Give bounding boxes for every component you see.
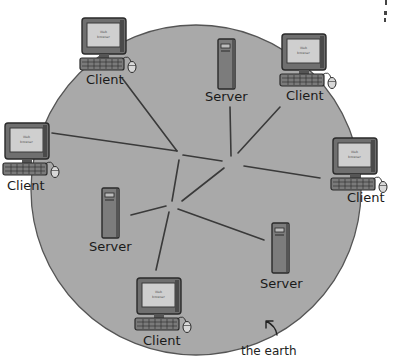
computer-icon (280, 34, 336, 89)
client-label: Client (347, 190, 385, 205)
server-icon (272, 223, 289, 273)
server-icon (218, 39, 235, 89)
server-icon (102, 188, 119, 238)
screen-text: browser (97, 35, 110, 39)
client-label: Client (86, 72, 124, 87)
server-label: Server (205, 89, 248, 104)
screen-text: browser (297, 51, 310, 55)
connection-line (230, 107, 231, 156)
screen-text: Web (100, 30, 107, 34)
server-bottom-right (272, 223, 289, 273)
screen-text: Web (300, 46, 307, 50)
computer-icon (331, 138, 387, 193)
server-label: Server (260, 276, 303, 291)
client-label: Client (143, 333, 181, 348)
client-right: Web browser (331, 138, 387, 193)
client-server-diagram: Web browser Client Web browser Client We… (0, 0, 398, 362)
screen-text: browser (20, 140, 33, 144)
server-top (218, 39, 235, 89)
edge-marks (384, 0, 387, 22)
client-top-right: Web browser (280, 34, 336, 89)
client-label: Client (7, 178, 45, 193)
screen-text: browser (348, 155, 361, 159)
client-label: Client (286, 88, 324, 103)
server-bottom-left (102, 188, 119, 238)
server-label: Server (89, 239, 132, 254)
screen-text: Web (155, 290, 162, 294)
screen-text: Web (351, 150, 358, 154)
earth-label: the earth (241, 344, 297, 358)
screen-text: Web (23, 135, 30, 139)
screen-text: browser (152, 295, 165, 299)
